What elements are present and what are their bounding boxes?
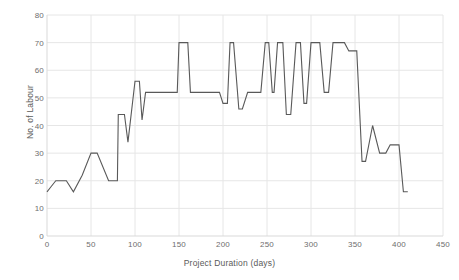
x-axis-title: Project Duration (days) (0, 258, 459, 268)
plot-area (0, 0, 459, 280)
data-series-line (47, 43, 408, 192)
resource-histogram-chart: No. of Labour 01020304050607080 05010015… (0, 0, 459, 280)
